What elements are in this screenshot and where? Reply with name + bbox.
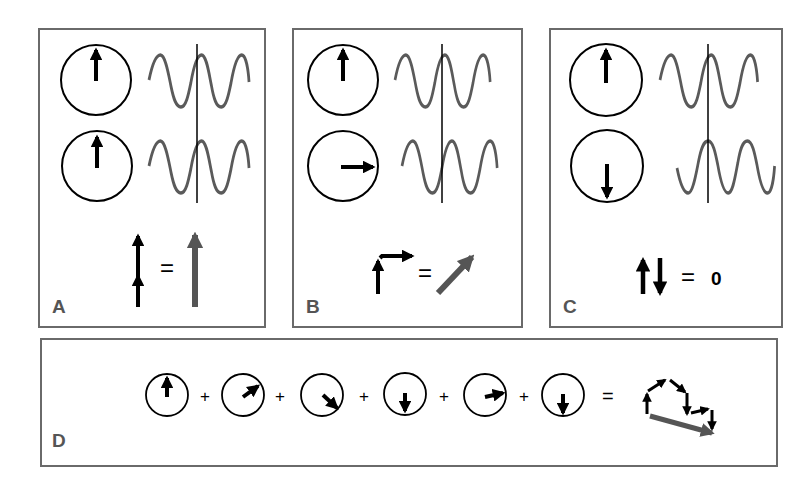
arrow-right-icon	[485, 393, 503, 397]
arrow-right-icon	[380, 256, 412, 258]
panel-b-graphics: =	[308, 44, 497, 294]
sine-wave-icon	[402, 141, 497, 193]
equals-sign: =	[418, 259, 432, 286]
panel-c-graphics: =	[570, 44, 775, 294]
panel-a-graphics: =	[61, 44, 249, 307]
arrow-up-right-icon	[243, 386, 258, 397]
sine-wave-icon	[149, 55, 249, 107]
plus-sign: +	[200, 387, 210, 406]
phasor-circle-icon	[301, 374, 343, 416]
sine-wave-icon	[660, 55, 758, 107]
sine-wave-icon	[677, 141, 775, 193]
equals-sign: =	[160, 254, 174, 281]
arrow-down-right-icon	[323, 395, 337, 408]
diagram-canvas: = = = 0	[0, 0, 810, 486]
plus-sign: +	[439, 387, 449, 406]
zero-result: 0	[711, 268, 722, 289]
resultant-arrow-icon	[650, 416, 712, 433]
equals-sign: =	[681, 263, 695, 290]
resultant-arrow-icon	[438, 257, 472, 293]
sine-wave-icon	[149, 141, 249, 193]
equals-sign: =	[602, 385, 614, 407]
plus-sign: +	[275, 387, 285, 406]
vector-sum-chain	[647, 380, 712, 433]
plus-sign: +	[359, 387, 369, 406]
panel-d-graphics: + + + + + =	[146, 373, 712, 433]
plus-sign: +	[519, 387, 529, 406]
